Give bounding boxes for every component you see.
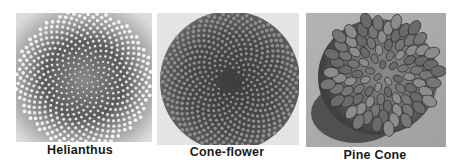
cone-flower-caption: Cone-flower bbox=[190, 145, 264, 159]
cone-flower-image bbox=[157, 13, 299, 145]
helianthus-caption: Helianthus bbox=[47, 143, 113, 157]
pine-cone-image bbox=[306, 13, 446, 147]
helianthus-image bbox=[16, 13, 152, 142]
pine-cone-caption: Pine Cone bbox=[344, 148, 407, 162]
